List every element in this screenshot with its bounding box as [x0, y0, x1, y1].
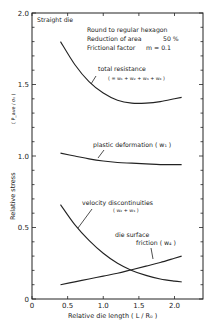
x-axis-title: Relative die length ( L / R₀ ) [68, 312, 157, 320]
y-axis-title: Relative stress [9, 172, 17, 220]
velocity-discontinuities-pointer [78, 209, 92, 228]
plot-frame [32, 13, 203, 299]
condition-shape: Round to regular hexagon [87, 26, 168, 34]
plastic-deformation-label: plastic deformation ( w₁ ) [93, 141, 171, 149]
die-surface-friction-label-2: friction ( w₄ ) [136, 239, 176, 246]
die-surface-friction-pointer [151, 248, 153, 259]
total-resistance-label: total resistance [98, 65, 146, 72]
condition-friction: Frictional factor [87, 44, 136, 51]
x-tick-label: 2.0 [169, 302, 180, 310]
total-resistance-formula: ( = w₁ + w₂ + w₃ + w₄ ) [108, 76, 165, 81]
total-resistance-pointer [91, 76, 96, 84]
y-tick-label: 1.0 [18, 153, 29, 161]
axis-ticks [32, 13, 203, 299]
y-tick-label: 1.5 [18, 81, 29, 89]
velocity-discontinuities-label: velocity discontinuities [82, 199, 153, 207]
y-axis-ratio: ( P_ave / σ₀ ) [11, 93, 17, 124]
condition-friction-value: m = 0.1 [146, 44, 171, 51]
x-tick-label: 1.0 [98, 302, 109, 310]
x-tick-label: 1.5 [133, 302, 144, 310]
curve-plastic-deformation [61, 153, 182, 164]
x-tick-label: 0 [30, 302, 34, 310]
curve-die-surface-friction [61, 256, 182, 285]
y-tick-label: 2.0 [18, 10, 29, 18]
die-surface-friction-label-1: die surface [115, 231, 149, 238]
y-tick-label: 0.5 [18, 224, 29, 232]
die-type-label: Straight die [37, 16, 73, 24]
condition-reduction-value: 50 % [163, 35, 179, 42]
y-tick-label: 0 [25, 296, 29, 304]
axis-tick-labels: 00.51.01.52.000.51.01.52.0 [18, 10, 180, 311]
x-tick-label: 0.5 [62, 302, 73, 310]
plastic-deformation-pointer [98, 150, 104, 158]
condition-reduction: Reduction of area [87, 35, 142, 42]
velocity-discontinuities-formula: ( w₂ + w₃ ) [113, 208, 139, 213]
chart: 00.51.01.52.000.51.01.52.0 Straight die … [0, 0, 212, 329]
